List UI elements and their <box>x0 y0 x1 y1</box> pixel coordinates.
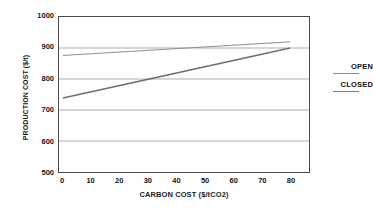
legend-entry-closed[interactable]: CLOSED <box>315 80 373 92</box>
x-tick-label: 60 <box>222 177 246 185</box>
x-axis-title: CARBON COST ($/tCO2) <box>58 190 310 199</box>
y-tick-label: 1000 <box>20 12 54 20</box>
y-tick-label: 800 <box>20 75 54 83</box>
x-tick-label: 30 <box>136 177 160 185</box>
series-line-open <box>63 42 290 56</box>
series-lines <box>63 42 290 98</box>
legend-label: OPEN <box>315 62 373 71</box>
x-tick-label: 50 <box>193 177 217 185</box>
y-tick-label: 700 <box>20 106 54 114</box>
x-tick-label: 80 <box>279 177 303 185</box>
plot-canvas <box>59 17 309 172</box>
chart-legend: OPENCLOSED <box>315 62 373 98</box>
y-tick-label: 500 <box>20 169 54 177</box>
plot-area <box>58 16 310 173</box>
legend-entry-open[interactable]: OPEN <box>315 62 373 74</box>
y-tick-label: 600 <box>20 138 54 146</box>
x-tick-label: 20 <box>107 177 131 185</box>
legend-swatch-closed <box>333 91 359 92</box>
chart-figure: PRODUCTION COST ($/t) 500600700800900100… <box>0 0 373 209</box>
x-tick-label: 40 <box>165 177 189 185</box>
y-tick-label: 900 <box>20 43 54 51</box>
x-tick-label: 10 <box>79 177 103 185</box>
x-tick-label: 0 <box>50 177 74 185</box>
gridlines <box>59 48 309 141</box>
x-tick-label: 70 <box>250 177 274 185</box>
legend-label: CLOSED <box>315 80 373 89</box>
legend-swatch-open <box>333 73 359 74</box>
series-line-closed <box>63 48 290 98</box>
